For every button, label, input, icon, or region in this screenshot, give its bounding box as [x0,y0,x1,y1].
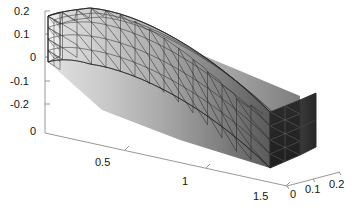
figure-canvas: 0.2 0.1 0 -0.1 -0.2 0 0.5 1 1.5 0 0.1 0.… [0,0,352,211]
z-tick-0.1: 0.1 [14,29,29,40]
z-tick-0: 0 [30,52,36,63]
z-tick-0.2: 0.2 [14,6,29,17]
y-tick-0.1: 0.1 [305,184,320,195]
y-tick-0.2: 0.2 [329,179,344,190]
x-tick-1: 1 [182,176,188,187]
x-tick-1.5: 1.5 [253,191,268,202]
y-tick-0: 0 [290,189,296,200]
z-tick-neg0.2: -0.2 [10,99,29,110]
z-tick-origin-0: 0 [30,126,36,137]
beam-mesh [48,8,316,168]
x-tick-0.5: 0.5 [95,157,110,168]
mesh-plot [0,0,352,211]
z-tick-neg0.1: -0.1 [10,76,29,87]
